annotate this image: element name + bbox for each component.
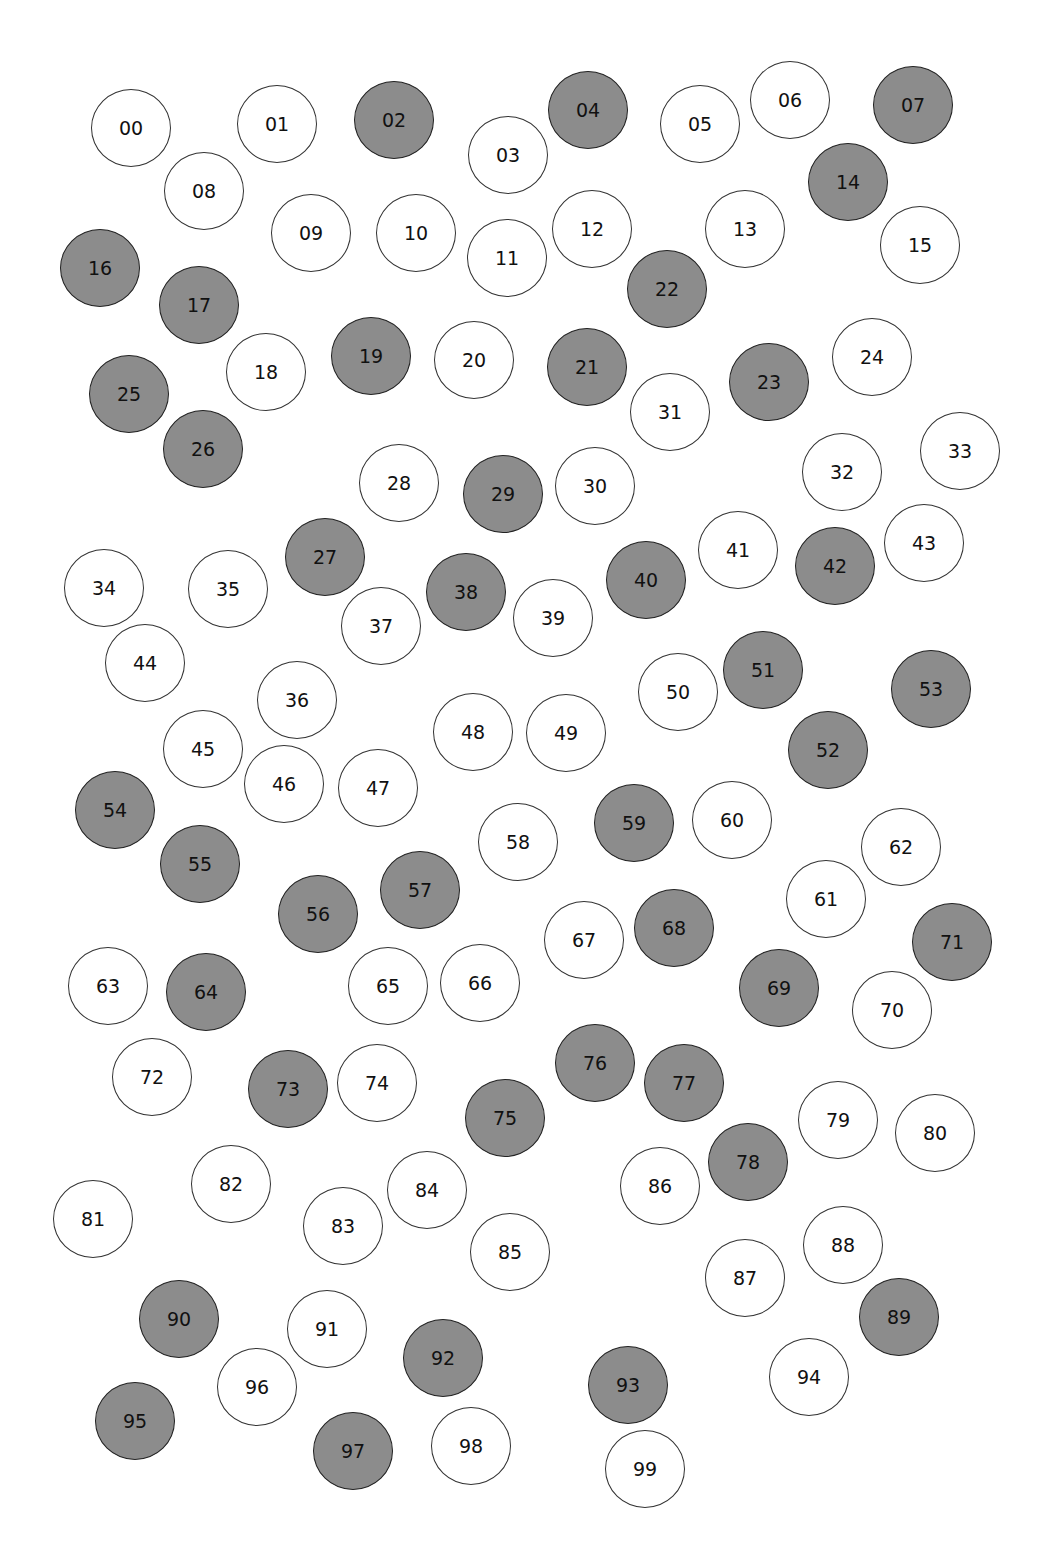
circle-26-shaded: 26 <box>163 410 243 488</box>
circle-82-plain: 82 <box>191 1145 271 1223</box>
circle-03-plain: 03 <box>468 116 548 194</box>
circle-97-shaded: 97 <box>313 1412 393 1490</box>
circle-45-plain: 45 <box>163 710 243 788</box>
circle-30-plain: 30 <box>555 447 635 525</box>
circle-52-shaded: 52 <box>788 711 868 789</box>
circle-98-plain: 98 <box>431 1407 511 1485</box>
circle-65-plain: 65 <box>348 947 428 1025</box>
circle-95-shaded: 95 <box>95 1382 175 1460</box>
circle-00-plain: 00 <box>91 89 171 167</box>
circle-33-plain: 33 <box>920 412 1000 490</box>
circle-75-shaded: 75 <box>465 1079 545 1157</box>
circle-12-plain: 12 <box>552 190 632 268</box>
circle-87-plain: 87 <box>705 1239 785 1317</box>
circle-92-shaded: 92 <box>403 1319 483 1397</box>
circle-73-shaded: 73 <box>248 1050 328 1128</box>
circle-49-plain: 49 <box>526 694 606 772</box>
circle-22-shaded: 22 <box>627 250 707 328</box>
circle-60-plain: 60 <box>692 781 772 859</box>
circle-70-plain: 70 <box>852 971 932 1049</box>
circle-11-plain: 11 <box>467 219 547 297</box>
circle-43-plain: 43 <box>884 504 964 582</box>
circle-93-shaded: 93 <box>588 1346 668 1424</box>
numbered-circles-diagram: 0001020304050607080910111213141516171819… <box>0 0 1051 1544</box>
circle-04-shaded: 04 <box>548 71 628 149</box>
circle-40-shaded: 40 <box>606 541 686 619</box>
circle-08-plain: 08 <box>164 152 244 230</box>
circle-63-plain: 63 <box>68 947 148 1025</box>
circle-56-shaded: 56 <box>278 875 358 953</box>
circle-17-shaded: 17 <box>159 266 239 344</box>
circle-19-shaded: 19 <box>331 317 411 395</box>
circle-10-plain: 10 <box>376 194 456 272</box>
circle-36-plain: 36 <box>257 661 337 739</box>
circle-09-plain: 09 <box>271 194 351 272</box>
circle-55-shaded: 55 <box>160 825 240 903</box>
circle-91-plain: 91 <box>287 1290 367 1368</box>
circle-28-plain: 28 <box>359 444 439 522</box>
circle-06-plain: 06 <box>750 61 830 139</box>
circle-61-plain: 61 <box>786 860 866 938</box>
circle-94-plain: 94 <box>769 1338 849 1416</box>
circle-39-plain: 39 <box>513 579 593 657</box>
circle-79-plain: 79 <box>798 1081 878 1159</box>
circle-07-shaded: 07 <box>873 66 953 144</box>
circle-57-shaded: 57 <box>380 851 460 929</box>
circle-85-plain: 85 <box>470 1213 550 1291</box>
circle-74-plain: 74 <box>337 1044 417 1122</box>
circle-54-shaded: 54 <box>75 771 155 849</box>
circle-84-plain: 84 <box>387 1151 467 1229</box>
circle-47-plain: 47 <box>338 749 418 827</box>
circle-71-shaded: 71 <box>912 903 992 981</box>
circle-15-plain: 15 <box>880 206 960 284</box>
circle-96-plain: 96 <box>217 1348 297 1426</box>
circle-44-plain: 44 <box>105 624 185 702</box>
circle-78-shaded: 78 <box>708 1123 788 1201</box>
circle-86-plain: 86 <box>620 1147 700 1225</box>
circle-51-shaded: 51 <box>723 631 803 709</box>
circle-62-plain: 62 <box>861 808 941 886</box>
circle-42-shaded: 42 <box>795 527 875 605</box>
circle-88-plain: 88 <box>803 1206 883 1284</box>
circle-34-plain: 34 <box>64 549 144 627</box>
circle-23-shaded: 23 <box>729 343 809 421</box>
circle-24-plain: 24 <box>832 318 912 396</box>
circle-89-shaded: 89 <box>859 1278 939 1356</box>
circle-69-shaded: 69 <box>739 949 819 1027</box>
circle-68-shaded: 68 <box>634 889 714 967</box>
circle-83-plain: 83 <box>303 1187 383 1265</box>
circle-53-shaded: 53 <box>891 650 971 728</box>
circle-58-plain: 58 <box>478 803 558 881</box>
circle-20-plain: 20 <box>434 321 514 399</box>
circle-27-shaded: 27 <box>285 518 365 596</box>
circle-76-shaded: 76 <box>555 1024 635 1102</box>
circle-01-plain: 01 <box>237 85 317 163</box>
circle-90-shaded: 90 <box>139 1280 219 1358</box>
circle-81-plain: 81 <box>53 1180 133 1258</box>
circle-05-plain: 05 <box>660 85 740 163</box>
circle-67-plain: 67 <box>544 901 624 979</box>
circle-46-plain: 46 <box>244 745 324 823</box>
circle-14-shaded: 14 <box>808 143 888 221</box>
circle-59-shaded: 59 <box>594 784 674 862</box>
circle-66-plain: 66 <box>440 944 520 1022</box>
circle-48-plain: 48 <box>433 693 513 771</box>
circle-02-shaded: 02 <box>354 81 434 159</box>
circle-13-plain: 13 <box>705 190 785 268</box>
circle-35-plain: 35 <box>188 550 268 628</box>
circle-32-plain: 32 <box>802 433 882 511</box>
circle-50-plain: 50 <box>638 653 718 731</box>
circle-21-shaded: 21 <box>547 328 627 406</box>
circle-25-shaded: 25 <box>89 355 169 433</box>
circle-38-shaded: 38 <box>426 553 506 631</box>
circle-99-plain: 99 <box>605 1430 685 1508</box>
circle-29-shaded: 29 <box>463 455 543 533</box>
circle-37-plain: 37 <box>341 587 421 665</box>
circle-31-plain: 31 <box>630 373 710 451</box>
circle-64-shaded: 64 <box>166 953 246 1031</box>
circle-80-plain: 80 <box>895 1094 975 1172</box>
circle-18-plain: 18 <box>226 333 306 411</box>
circle-16-shaded: 16 <box>60 229 140 307</box>
circle-72-plain: 72 <box>112 1038 192 1116</box>
circle-41-plain: 41 <box>698 511 778 589</box>
